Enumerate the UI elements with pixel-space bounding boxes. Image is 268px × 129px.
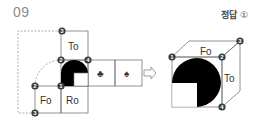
diagram: To Fo Ro ♣ ♠ 3 2 4 1 2 3 Fo To 1 2 3 4 — [0, 0, 268, 129]
club-icon: ♣ — [97, 68, 104, 79]
net-label-right: Ro — [66, 95, 79, 106]
cube-label-top: Fo — [200, 46, 212, 57]
arrow-right-icon — [144, 67, 156, 79]
cube-label-side: To — [224, 73, 235, 84]
cube-front-shape — [172, 58, 221, 107]
net-center-shape — [61, 60, 88, 86]
spade-icon: ♠ — [124, 68, 130, 79]
net-label-top: To — [68, 41, 79, 52]
net-label-front: Fo — [40, 95, 52, 106]
